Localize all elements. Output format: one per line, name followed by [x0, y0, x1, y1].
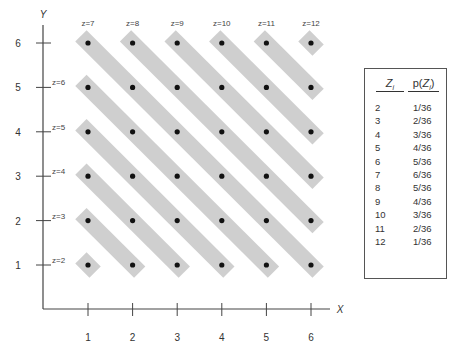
table-row: 32/36	[365, 115, 446, 128]
outcome-point	[130, 40, 135, 45]
outcome-point	[264, 218, 269, 223]
outcome-point	[264, 40, 269, 45]
outcome-point	[264, 262, 269, 267]
sum-label: z=6	[52, 78, 66, 87]
outcome-point	[219, 40, 224, 45]
probability-value: 5/36	[413, 182, 432, 193]
outcome-point	[264, 129, 269, 134]
outcome-point	[85, 174, 90, 179]
table-row: 65/36	[365, 156, 446, 169]
outcome-point	[219, 85, 224, 90]
table-row: 54/36	[365, 142, 446, 155]
probability-value: 1/36	[413, 236, 432, 247]
outcome-point	[219, 129, 224, 134]
outcome-point	[130, 85, 135, 90]
probability-value: 3/36	[413, 129, 432, 140]
x-tick-label: 3	[174, 332, 180, 343]
sum-label: z=7	[81, 19, 95, 28]
outcome-point	[130, 262, 135, 267]
outcome-point	[219, 174, 224, 179]
outcome-point	[308, 129, 313, 134]
outcome-point	[85, 218, 90, 223]
table-row: 76/36	[365, 169, 446, 182]
sum-label: z=10	[213, 19, 231, 28]
sum-label: z=2	[52, 256, 66, 265]
y-tick-label: 5	[15, 82, 21, 93]
table-row: 43/36	[365, 129, 446, 142]
sum-label: z=4	[52, 167, 66, 176]
outcome-point	[308, 85, 313, 90]
z-value: 5	[375, 142, 380, 153]
outcome-point	[308, 174, 313, 179]
probability-value: 4/36	[413, 142, 432, 153]
x-tick-label: 5	[264, 332, 270, 343]
table-row: 121/36	[365, 236, 446, 249]
y-tick-label: 1	[15, 260, 21, 271]
y-axis-label: Y	[40, 9, 48, 20]
outcome-point	[308, 40, 313, 45]
table-row: 112/36	[365, 223, 446, 236]
probability-value: 4/36	[413, 196, 432, 207]
sum-label: z=3	[52, 212, 66, 221]
outcome-point	[175, 262, 180, 267]
sum-label: z=9	[171, 19, 185, 28]
probability-value: 6/36	[413, 169, 432, 180]
outcome-point	[175, 85, 180, 90]
sum-label: z=11	[258, 19, 276, 28]
probability-value: 2/36	[413, 115, 432, 126]
outcome-point	[130, 218, 135, 223]
x-tick-label: 2	[130, 332, 136, 343]
table-row: 103/36	[365, 209, 446, 222]
z-value: 10	[375, 209, 386, 220]
x-tick-label: 4	[219, 332, 225, 343]
y-tick-label: 4	[15, 127, 21, 138]
outcome-point	[130, 174, 135, 179]
table-row: 85/36	[365, 182, 446, 195]
outcome-point	[85, 262, 90, 267]
z-value: 12	[375, 236, 386, 247]
probability-value: 1/36	[413, 102, 432, 113]
probability-value: 5/36	[413, 156, 432, 167]
z-value: 8	[375, 182, 380, 193]
table-row: 21/36	[365, 102, 446, 115]
outcome-point	[219, 262, 224, 267]
table-header-p: p(Zi)	[408, 77, 439, 92]
outcome-point	[308, 262, 313, 267]
z-value: 9	[375, 196, 380, 207]
outcome-point	[264, 174, 269, 179]
z-value: 6	[375, 156, 380, 167]
outcome-point	[85, 40, 90, 45]
outcome-point	[219, 218, 224, 223]
probability-table: Zi p(Zi) 21/3632/3643/3654/3665/3676/368…	[364, 68, 447, 279]
outcome-point	[175, 218, 180, 223]
z-value: 11	[375, 223, 385, 234]
outcome-point	[85, 85, 90, 90]
outcome-point	[264, 85, 269, 90]
table-header-z: Zi	[376, 77, 404, 92]
outcome-point	[175, 174, 180, 179]
x-axis-label: X	[336, 304, 344, 315]
outcome-point	[308, 218, 313, 223]
z-value: 2	[375, 102, 380, 113]
y-tick-label: 6	[15, 38, 21, 49]
y-tick-label: 3	[15, 171, 21, 182]
z-value: 3	[375, 115, 380, 126]
table-body: 21/3632/3643/3654/3665/3676/3685/3694/36…	[365, 102, 446, 249]
y-tick-label: 2	[15, 216, 21, 227]
outcome-point	[175, 129, 180, 134]
outcome-point	[130, 129, 135, 134]
outcome-point	[175, 40, 180, 45]
z-value: 7	[375, 169, 380, 180]
sum-label: z=5	[52, 123, 66, 132]
sum-label: z=8	[126, 19, 140, 28]
x-tick-label: 6	[308, 332, 314, 343]
outcome-point	[85, 129, 90, 134]
x-tick-label: 1	[85, 332, 91, 343]
probability-value: 3/36	[413, 209, 432, 220]
table-row: 94/36	[365, 196, 446, 209]
sum-label: z=12	[302, 19, 320, 28]
z-value: 4	[375, 129, 380, 140]
probability-value: 2/36	[413, 223, 432, 234]
